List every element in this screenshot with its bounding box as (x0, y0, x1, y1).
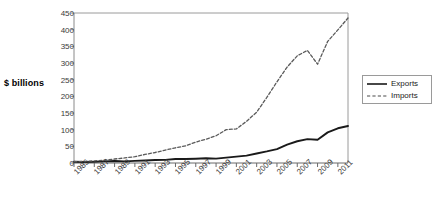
x-tick-label: 1993 (153, 157, 172, 176)
x-tick-label: 2005 (275, 157, 294, 176)
x-tick-label: 2003 (255, 157, 274, 176)
legend-line-dashed-icon (367, 92, 387, 100)
x-tick-label: 1991 (133, 157, 152, 176)
x-tick-label: 2009 (316, 157, 335, 176)
x-tick-label: 1995 (173, 157, 192, 176)
x-tick-label: 1989 (113, 157, 132, 176)
legend-label-imports: Imports (391, 92, 418, 100)
legend-item-imports: Imports (367, 90, 418, 102)
legend-label-exports: Exports (391, 80, 418, 88)
legend-line-solid-icon (367, 80, 387, 88)
x-tick-label: 2001 (234, 157, 253, 176)
x-tick-label: 1985 (72, 157, 91, 176)
x-tick-label: 2011 (336, 158, 355, 177)
chart-container: $ billions 050100150200250300350400450 1… (0, 0, 439, 197)
legend-item-exports: Exports (367, 78, 418, 90)
x-tick-label: 2007 (295, 157, 314, 176)
legend: Exports Imports (362, 75, 432, 104)
x-tick-label: 1997 (194, 157, 213, 176)
x-tick-label: 1999 (214, 157, 233, 176)
x-tick-label: 1987 (92, 157, 111, 176)
